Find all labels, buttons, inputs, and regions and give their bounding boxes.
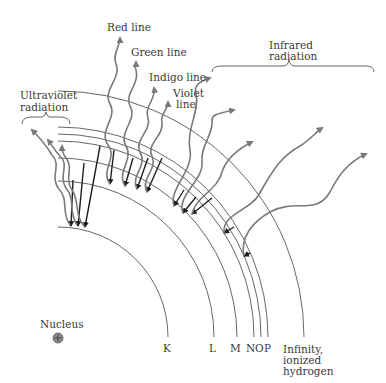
infrared-transitions — [173, 78, 366, 256]
green-line-wave — [122, 62, 136, 186]
green-line-label: Green line — [131, 46, 187, 58]
shell-o-label: O — [255, 342, 264, 354]
shell-k-label: K — [163, 342, 171, 354]
ultraviolet-transitions — [32, 130, 100, 227]
nucleus-label: Nucleus — [40, 318, 84, 330]
violet-line-label-2: line — [176, 98, 196, 110]
energy-level-diagram: Ultraviolet radiation Infrared radiation… — [0, 0, 386, 383]
infinity-label-line3: hydrogen — [283, 365, 334, 377]
nucleus-icon — [53, 333, 63, 343]
ultraviolet-label-line2: radiation — [20, 101, 69, 113]
ultraviolet-brace — [22, 112, 70, 124]
ultraviolet-label-line1: Ultraviolet — [20, 89, 78, 101]
infrared-label-line2: radiation — [269, 50, 318, 62]
shell-n-label: N — [246, 342, 255, 354]
shell-p-label: P — [264, 342, 271, 354]
shell-l-label: L — [209, 342, 216, 354]
red-line-label: Red line — [107, 21, 151, 33]
shell-m-arc — [58, 158, 237, 337]
shell-m-label: M — [230, 342, 241, 354]
indigo-line-label: Indigo line — [149, 71, 206, 83]
indigo-line-wave — [135, 88, 154, 189]
